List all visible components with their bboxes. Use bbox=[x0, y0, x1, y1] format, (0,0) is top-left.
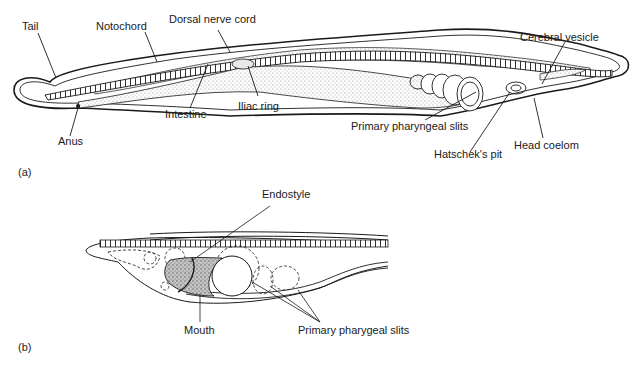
label-tail: Tail bbox=[22, 20, 39, 32]
label-anus: Anus bbox=[58, 135, 83, 147]
label-dorsal-nerve-cord: Dorsal nerve cord bbox=[169, 13, 256, 25]
pharynx-opening-shape bbox=[212, 256, 252, 296]
label-primary-pharyngeal-slits: Primary pharyngeal slits bbox=[351, 120, 468, 132]
notochord-b-shape bbox=[100, 240, 388, 247]
label-head-coelom: Head coelom bbox=[514, 139, 579, 151]
label-endostyle: Endostyle bbox=[262, 188, 310, 200]
amphioxus-diagram bbox=[0, 0, 637, 369]
iliac-ring-shape bbox=[232, 59, 254, 69]
label-cerebral-vesicle: Cerebral vesicle bbox=[520, 31, 599, 43]
label-primary-pharygeal-slits: Primary pharygeal slits bbox=[298, 324, 409, 336]
hatscheks-pit-shape bbox=[506, 82, 526, 94]
label-iliac-ring: Iliac ring bbox=[238, 100, 279, 112]
label-intestine: Intestine bbox=[165, 108, 207, 120]
label-hatscheks-pit: Hatschek's pit bbox=[434, 148, 502, 160]
anus-shape bbox=[76, 104, 80, 108]
panel-label-a: (a) bbox=[18, 166, 31, 178]
label-notochord: Notochord bbox=[96, 20, 147, 32]
label-mouth: Mouth bbox=[184, 324, 215, 336]
panel-label-b: (b) bbox=[18, 341, 31, 353]
